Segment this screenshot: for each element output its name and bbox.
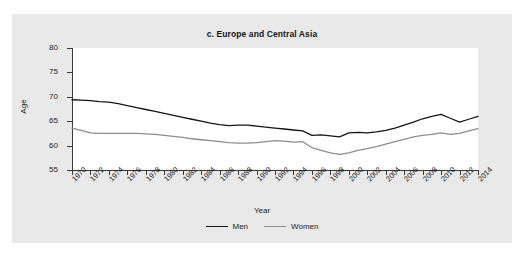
y-tick-label: 80 xyxy=(28,43,58,52)
legend-item-women[interactable]: Women xyxy=(264,222,318,231)
legend-swatch-icon xyxy=(264,226,286,227)
legend-label: Women xyxy=(291,222,318,231)
y-tick-label: 70 xyxy=(28,92,58,101)
figure-root: c. Europe and Central Asia 556065707580 … xyxy=(0,0,526,258)
x-axis-title: Year xyxy=(12,206,512,215)
series-lines xyxy=(72,48,478,170)
series-line-men xyxy=(72,100,478,137)
chart-panel: c. Europe and Central Asia 556065707580 … xyxy=(12,14,512,243)
y-axis-title: Age xyxy=(19,87,28,127)
x-tick-label: 2014 xyxy=(476,165,494,183)
legend-swatch-icon xyxy=(206,226,228,227)
y-tick-label: 75 xyxy=(28,67,58,76)
y-tick-label: 65 xyxy=(28,116,58,125)
chart-legend: MenWomen xyxy=(12,222,512,231)
y-tick-label: 55 xyxy=(28,165,58,174)
legend-item-men[interactable]: Men xyxy=(206,222,249,231)
legend-label: Men xyxy=(233,222,249,231)
y-tick-label: 60 xyxy=(28,141,58,150)
plot-wrapper: 556065707580 Age 19701972197419761978198… xyxy=(12,14,512,243)
series-line-women xyxy=(72,128,478,154)
cut-off-header-strip xyxy=(0,0,526,13)
